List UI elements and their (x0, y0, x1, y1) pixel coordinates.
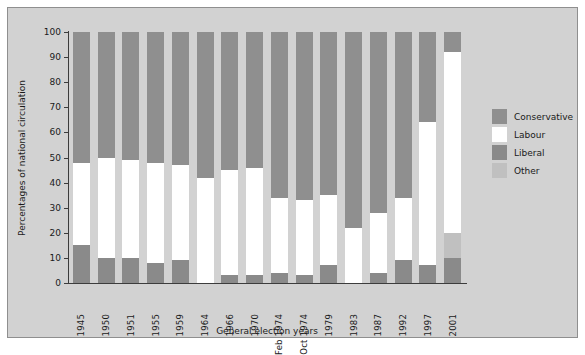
y-tick-mark (64, 57, 69, 58)
y-tick-mark (64, 258, 69, 259)
bar-segment-labour[interactable] (370, 213, 387, 273)
bar-column[interactable] (246, 32, 263, 283)
bar-segment-liberal[interactable] (419, 265, 436, 283)
bar-column[interactable] (395, 32, 412, 283)
bar-column[interactable] (221, 32, 238, 283)
bar-segment-conservative[interactable] (221, 32, 238, 170)
y-tick-label: 60 (50, 127, 61, 137)
legend-swatch (492, 163, 507, 178)
y-tick-label: 90 (50, 52, 61, 62)
bar-segment-conservative[interactable] (395, 32, 412, 198)
bar-segment-labour[interactable] (271, 198, 288, 273)
bar-column[interactable] (271, 32, 288, 283)
y-tick-mark (64, 107, 69, 108)
bar-segment-labour[interactable] (197, 178, 214, 283)
y-tick-mark (64, 233, 69, 234)
bar-column[interactable] (172, 32, 189, 283)
bar-column[interactable] (122, 32, 139, 283)
bar-segment-other[interactable] (444, 233, 461, 258)
y-tick-label: 80 (50, 77, 61, 87)
legend-label: Other (514, 166, 540, 176)
bar-column[interactable] (444, 32, 461, 283)
y-tick-mark (64, 132, 69, 133)
legend-swatch (492, 127, 507, 142)
bar-segment-conservative[interactable] (271, 32, 288, 198)
bar-segment-labour[interactable] (419, 122, 436, 265)
legend-item[interactable]: Conservative (492, 108, 582, 125)
legend-item[interactable]: Labour (492, 126, 582, 143)
bar-segment-liberal[interactable] (370, 273, 387, 283)
y-tick-mark (64, 183, 69, 184)
bar-segment-conservative[interactable] (419, 32, 436, 122)
legend-item[interactable]: Other (492, 162, 582, 179)
bar-column[interactable] (197, 32, 214, 283)
bar-segment-labour[interactable] (172, 165, 189, 260)
bar-segment-liberal[interactable] (73, 245, 90, 283)
bar-segment-labour[interactable] (320, 195, 337, 265)
y-tick-label: 50 (50, 153, 61, 163)
bar-segment-conservative[interactable] (345, 32, 362, 228)
y-tick-mark (64, 158, 69, 159)
bar-column[interactable] (370, 32, 387, 283)
y-tick-mark (64, 283, 69, 284)
bar-segment-liberal[interactable] (122, 258, 139, 283)
bar-segment-conservative[interactable] (444, 32, 461, 52)
bar-segment-labour[interactable] (296, 200, 313, 275)
bar-segment-conservative[interactable] (122, 32, 139, 160)
y-tick-mark (64, 32, 69, 33)
bar-segment-labour[interactable] (345, 228, 362, 283)
bar-segment-conservative[interactable] (246, 32, 263, 168)
bar-segment-labour[interactable] (73, 163, 90, 246)
bar-segment-conservative[interactable] (370, 32, 387, 213)
bar-segment-liberal[interactable] (320, 265, 337, 283)
y-tick-mark (64, 208, 69, 209)
bar-column[interactable] (73, 32, 90, 283)
y-tick-mark (64, 82, 69, 83)
bar-segment-labour[interactable] (98, 158, 115, 258)
bar-segment-liberal[interactable] (147, 263, 164, 283)
bar-column[interactable] (419, 32, 436, 283)
plot-area: 0102030405060708090100 19451950195119551… (69, 32, 465, 283)
y-tick-label: 10 (50, 253, 61, 263)
bar-segment-liberal[interactable] (98, 258, 115, 283)
bar-segment-conservative[interactable] (98, 32, 115, 158)
bar-segment-liberal[interactable] (444, 258, 461, 283)
bar-segment-liberal[interactable] (246, 275, 263, 283)
bar-column[interactable] (147, 32, 164, 283)
chart-figure: Percentages of national circulation 0102… (7, 7, 578, 338)
bar-segment-conservative[interactable] (320, 32, 337, 195)
bar-segment-conservative[interactable] (197, 32, 214, 178)
chart-legend: ConservativeLabourLiberalOther (492, 108, 582, 180)
bar-segment-liberal[interactable] (271, 273, 288, 283)
bar-segment-labour[interactable] (221, 170, 238, 275)
bar-segment-conservative[interactable] (296, 32, 313, 200)
legend-label: Labour (514, 130, 545, 140)
y-tick-label: 20 (50, 228, 61, 238)
bar-segment-labour[interactable] (444, 52, 461, 233)
x-axis-title: General election years (69, 326, 465, 336)
bar-segment-labour[interactable] (395, 198, 412, 261)
legend-label: Liberal (514, 148, 544, 158)
bar-column[interactable] (320, 32, 337, 283)
y-tick-label: 0 (55, 278, 61, 288)
bar-segment-labour[interactable] (122, 160, 139, 258)
bar-segment-liberal[interactable] (172, 260, 189, 283)
bar-segment-conservative[interactable] (172, 32, 189, 165)
bar-segment-liberal[interactable] (221, 275, 238, 283)
legend-swatch (492, 145, 507, 160)
bar-segment-conservative[interactable] (73, 32, 90, 163)
legend-item[interactable]: Liberal (492, 144, 582, 161)
bar-column[interactable] (345, 32, 362, 283)
bar-column[interactable] (98, 32, 115, 283)
bar-segment-liberal[interactable] (296, 275, 313, 283)
bar-segment-conservative[interactable] (147, 32, 164, 163)
bar-column[interactable] (296, 32, 313, 283)
legend-swatch (492, 109, 507, 124)
bar-segment-labour[interactable] (147, 163, 164, 263)
y-tick-label: 70 (50, 102, 61, 112)
y-tick-label: 40 (50, 178, 61, 188)
y-tick-label: 100 (44, 27, 61, 37)
bar-segment-labour[interactable] (246, 168, 263, 276)
legend-label: Conservative (514, 112, 573, 122)
bar-segment-liberal[interactable] (395, 260, 412, 283)
